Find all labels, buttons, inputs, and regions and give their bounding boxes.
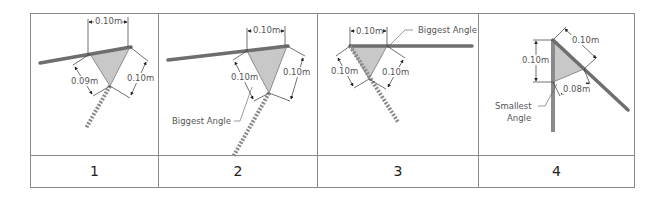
joint-diagrams: 0.10m 0.09m 0.10m 0.10m 0.10m	[0, 0, 664, 198]
dimension-label: 0.10m	[331, 66, 358, 76]
panel-2-diagram: 0.10m 0.10m 0.10m Biggest Angle	[168, 25, 310, 157]
panel-1-diagram: 0.10m 0.09m 0.10m	[40, 16, 154, 128]
dimension-label: 0.10m	[231, 72, 258, 82]
dimension-label: 0.10m	[127, 73, 154, 83]
dimension-label: 0.09m	[71, 76, 98, 86]
annotation-label: Biggest Angle	[418, 25, 477, 35]
dimension-label: 0.10m	[283, 67, 310, 77]
dimension-label: 0.10m	[522, 55, 549, 65]
dimension-label: 0.10m	[253, 25, 280, 35]
annotation-label: Angle	[507, 113, 531, 123]
annotation-label: Smallest	[495, 101, 532, 111]
dimension-label: 0.08m	[563, 84, 590, 94]
dimension-label: 0.10m	[356, 26, 383, 36]
panel-3-diagram: 0.10m 0.10m 0.10m Biggest Angle	[330, 25, 477, 122]
diagonal-strut	[233, 93, 269, 157]
dimension-label: 0.10m	[382, 67, 409, 77]
dimension-label: 0.10m	[95, 16, 122, 26]
panel-4-diagram: 0.10m 0.10m 0.08m Smallest Angle	[495, 27, 628, 132]
annotation-label: Biggest Angle	[172, 116, 231, 126]
gusset-triangle	[247, 46, 287, 93]
dimension-label: 0.10m	[572, 35, 599, 45]
diagonal-strut	[86, 86, 110, 128]
